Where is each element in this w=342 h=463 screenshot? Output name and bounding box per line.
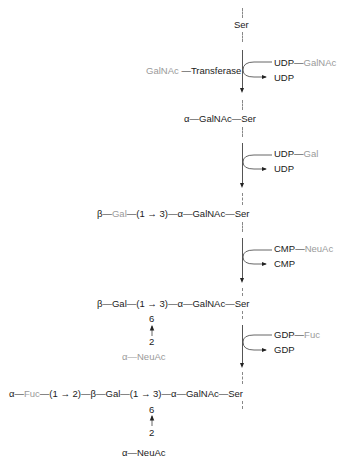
product-3: β—Gal—(1 → 3)—α—GalNAc—Ser [97,298,249,309]
linkage: (1 → 3) [136,208,168,219]
branch-neuac: α—NeuAc [122,447,166,458]
bond-dash: — [102,298,112,309]
sugar-galnac: GalNAc [192,208,225,219]
enzyme-dash: — [181,65,191,76]
product-1: α—GalNAc—Ser [184,113,256,124]
bond-dash: — [219,388,229,399]
bond-dash: — [40,388,50,399]
bond-dash: — [127,208,137,219]
residue-ser: Ser [235,298,250,309]
bond-dash: — [120,388,130,399]
step-3-donor: CMP—NeuAc [274,243,333,254]
bond-dash: — [128,447,138,458]
step-3-released: CMP [274,258,295,269]
start-serine-label: Ser [234,19,249,30]
sugar-galnac: GalNAc [186,388,219,399]
bond-dash: — [225,298,235,309]
sugar-gal: Gal [106,388,121,399]
step-2-released: UDP [274,163,294,174]
branch-neuac: α—NeuAc [122,351,166,362]
sugar-gal: Gal [112,298,127,309]
linkage: (1 → 3) [130,388,162,399]
residue-ser: Ser [235,208,250,219]
donor-sugar: Fuc [304,329,320,340]
linkage: (1 → 3) [136,298,168,309]
sugar-neuac: NeuAc [137,351,166,362]
step-4-donor: GDP—Fuc [274,329,320,340]
product-4: α—Fuc—(1 → 2)—β—Gal—(1 → 3)—α—GalNAc—Ser [9,388,243,399]
bond-dash: — [190,113,200,124]
bond-dash: — [176,388,186,399]
step-2-donor: UDP—Gal [274,148,318,159]
linkage: (1 → 2) [49,388,81,399]
residue-ser: Ser [228,388,243,399]
step-1-released: UDP [274,72,294,83]
bond-dash: — [295,243,305,254]
enzyme-substrate: GalNAc [146,65,179,76]
bond-dash: — [294,57,304,68]
enzyme-name: Transferase [191,65,241,76]
bond-dash: — [295,329,305,340]
bond-dash: — [294,148,304,159]
donor-sugar: Gal [304,148,319,159]
donor-nucleotide: GDP [274,329,295,340]
donor-sugar: GalNAc [304,57,337,68]
donor-nucleotide: CMP [274,243,295,254]
bond-dash: — [225,208,235,219]
sugar-neuac: NeuAc [137,447,166,458]
sugar-gal: Gal [112,208,127,219]
donor-nucleotide: UDP [274,148,294,159]
sugar-galnac: GalNAc [199,113,232,124]
donor-sugar: NeuAc [305,243,334,254]
bond-dash: — [96,388,106,399]
sugar-fuc: Fuc [24,388,40,399]
bond-dash: — [127,298,137,309]
bond-dash: — [81,388,91,399]
branch-position-2: 2 [149,336,154,347]
bond-dash: — [161,388,171,399]
step-4-released: GDP [274,344,295,355]
bond-dash: — [102,208,112,219]
branch-position-6: 6 [149,313,154,324]
bond-dash: — [232,113,242,124]
donor-nucleotide: UDP [274,57,294,68]
bond-dash: — [128,351,138,362]
branch-position-2: 2 [149,427,154,438]
residue-ser: Ser [241,113,256,124]
branch-position-6: 6 [149,404,154,415]
step-1-donor: UDP—GalNAc [274,57,336,68]
product-2: β—Gal—(1 → 3)—α—GalNAc—Ser [97,208,249,219]
sugar-galnac: GalNAc [192,298,225,309]
bond-dash: — [15,388,25,399]
enzyme-label: GalNAc —Transferase [146,65,241,76]
